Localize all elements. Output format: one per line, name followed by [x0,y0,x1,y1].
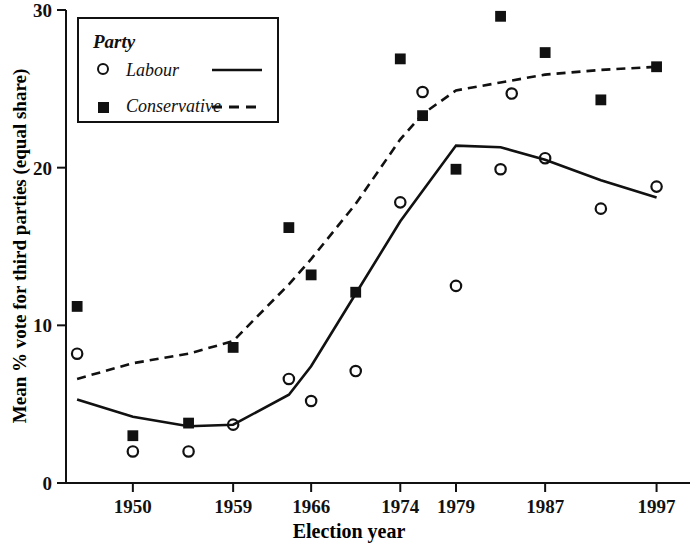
legend-title: Party [92,31,136,52]
conservative-point [495,11,506,22]
conservative-point [72,301,83,312]
conservative-point [395,53,406,64]
x-tick-label: 1966 [292,496,330,517]
x-tick-label: 1997 [638,496,677,517]
x-tick-label: 1959 [214,496,252,517]
conservative-point [595,94,606,105]
conservative-point [228,342,239,353]
x-axis-title: Election year [293,520,406,543]
legend-filled-square-icon [98,102,109,113]
x-tick-label: 1987 [526,496,565,517]
y-tick-label: 0 [43,473,53,494]
legend: Party Labour Conservative [78,18,278,122]
conservative-point [451,164,462,175]
conservative-point [350,287,361,298]
conservative-point [283,222,294,233]
conservative-point [417,110,428,121]
conservative-point [306,269,317,280]
legend-label-conservative: Conservative [126,96,221,116]
x-tick-label: 1950 [114,496,152,517]
conservative-point [183,418,194,429]
y-tick-label: 10 [33,315,52,336]
chart-figure: 0102030 1950195919661974197919871997 Par… [0,0,695,549]
conservative-point [540,47,551,58]
conservative-point [651,61,662,72]
legend-label-labour: Labour [125,60,180,80]
election-third-party-vote-chart: 0102030 1950195919661974197919871997 Par… [0,0,695,549]
x-tick-label: 1979 [437,496,475,517]
y-axis-title: Mean % vote for third parties (equal sha… [9,69,31,423]
y-tick-label: 20 [33,158,52,179]
conservative-point [127,430,138,441]
x-tick-label: 1974 [381,496,420,517]
y-tick-label: 30 [33,0,52,21]
